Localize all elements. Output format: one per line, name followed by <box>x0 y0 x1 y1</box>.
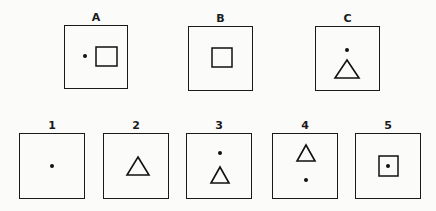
dot-icon <box>218 151 222 155</box>
figure-shapes <box>188 26 253 91</box>
option-label: 1 <box>19 119 85 132</box>
figure-shapes <box>64 25 128 89</box>
triangle-icon <box>211 167 229 183</box>
stimulus-label: A <box>64 11 128 24</box>
option-label: 3 <box>186 119 252 132</box>
option-panel-4[interactable]: 4 <box>272 133 338 199</box>
figure-shapes <box>186 133 252 199</box>
dot-icon <box>386 164 390 168</box>
option-label: 2 <box>103 119 169 132</box>
figure-shapes <box>355 133 421 199</box>
dot-icon <box>304 178 308 182</box>
square-icon <box>212 48 232 67</box>
figure-shapes <box>103 133 169 199</box>
stimulus-label: B <box>188 12 253 25</box>
square-icon <box>96 47 117 66</box>
dot-icon <box>50 164 54 168</box>
option-panel-3[interactable]: 3 <box>186 133 252 199</box>
option-panel-1[interactable]: 1 <box>19 133 85 199</box>
triangle-icon <box>127 157 149 175</box>
stimulus-panel-c: C <box>315 26 380 91</box>
dot-icon <box>83 54 87 58</box>
option-panel-5[interactable]: 5 <box>355 133 421 199</box>
dot-icon <box>345 48 349 52</box>
figure-shapes <box>272 133 338 199</box>
triangle-icon <box>335 60 359 78</box>
option-panel-2[interactable]: 2 <box>103 133 169 199</box>
stimulus-panel-a: A <box>64 25 128 89</box>
option-label: 5 <box>355 119 421 132</box>
figure-shapes <box>19 133 85 199</box>
figure-shapes <box>315 26 380 91</box>
stimulus-label: C <box>315 12 380 25</box>
option-label: 4 <box>272 119 338 132</box>
stimulus-panel-b: B <box>188 26 253 91</box>
triangle-icon <box>297 145 315 161</box>
